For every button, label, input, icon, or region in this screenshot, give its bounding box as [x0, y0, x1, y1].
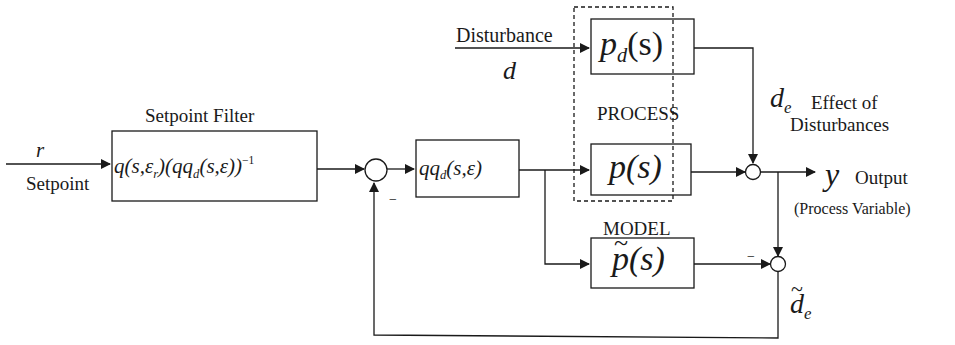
feedback-minus-sign: −: [389, 193, 397, 207]
filter-expr-part: )(qq: [158, 154, 193, 178]
process-group-title: PROCESS: [597, 104, 679, 123]
disturbance-effect-symbol: de: [770, 84, 791, 117]
output-summing-junction: [746, 165, 761, 180]
disturbance-effect-label-line2: Disturbances: [790, 115, 889, 134]
disturbance-model-expression: pd(s): [600, 27, 663, 66]
output-label: Output: [855, 168, 908, 187]
setpoint-symbol: r: [36, 140, 44, 161]
disturbance-symbol: d: [503, 58, 516, 84]
pd-expr-part: (s): [627, 25, 663, 62]
feedback-arrow: [374, 183, 778, 338]
de-symbol: d: [770, 82, 784, 113]
output-symbol: y: [825, 158, 839, 190]
controller-expression: qqd(s,ε): [419, 158, 482, 182]
estimated-disturbance-tilde: ~: [791, 278, 803, 300]
output-sublabel: (Process Variable): [794, 201, 911, 217]
disturbance-label: Disturbance: [456, 25, 553, 45]
de-tilde-sub: e: [804, 304, 811, 323]
pd-expr-sub: d: [617, 44, 627, 66]
setpoint-filter-expression: q(s,εr)(qqd(s,ε))−1: [114, 155, 254, 180]
model-minus-sign: −: [747, 250, 755, 264]
setpoint-filter-title: Setpoint Filter: [145, 106, 254, 125]
filter-expr-sup: −1: [242, 154, 254, 166]
controller-expr-part: (s,ε): [446, 156, 482, 180]
model-tilde: ~: [614, 230, 628, 256]
controller-to-model-arrow: [545, 170, 589, 264]
model-comparator-junction: [771, 257, 786, 272]
filter-expr-part: q(s,ε: [114, 154, 153, 178]
disturbance-effect-label-line1: Effect of: [811, 93, 878, 112]
disturbance-effect-arrow: [694, 48, 753, 163]
process-expression: p(s): [609, 150, 662, 184]
filter-expr-part: (s,ε)): [199, 154, 242, 178]
controller-expr-part: qq: [419, 156, 440, 180]
pd-expr-part: p: [600, 25, 617, 62]
main-summing-junction: [365, 159, 387, 181]
setpoint-label: Setpoint: [26, 174, 89, 193]
